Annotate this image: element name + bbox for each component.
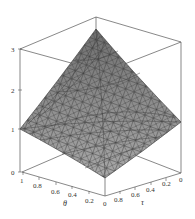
tau-tick-0: 0: [179, 176, 183, 184]
tau-tick-0.6: 0.6: [131, 191, 140, 199]
tau-tick-0.8: 0.8: [114, 196, 123, 204]
tau-axis-label: τ: [141, 198, 145, 207]
theta-tick-0.6: 0.6: [51, 188, 60, 196]
tau-tick-0.4: 0.4: [146, 186, 155, 194]
surface-plot-3d: 3 2 1 0 1 0.8 0.6 0.4 0.2 0 θ 0.8 0.6 0.…: [0, 0, 195, 219]
theta-tick-0.4: 0.4: [68, 191, 77, 199]
tau-axis-ticks: [120, 178, 166, 194]
z-tick-2: 2: [11, 87, 15, 95]
theta-tick-0.8: 0.8: [33, 182, 42, 190]
theta-tick-0.2: 0.2: [85, 197, 94, 205]
theta-axis-label: θ: [63, 199, 67, 208]
z-tick-1: 1: [11, 126, 15, 134]
theta-tick-1: 1: [20, 177, 24, 185]
z-tick-0: 0: [11, 169, 15, 177]
theta-tick-0: 0: [103, 200, 107, 208]
tau-tick-0.2: 0.2: [162, 180, 171, 188]
z-tick-3: 3: [11, 46, 15, 54]
